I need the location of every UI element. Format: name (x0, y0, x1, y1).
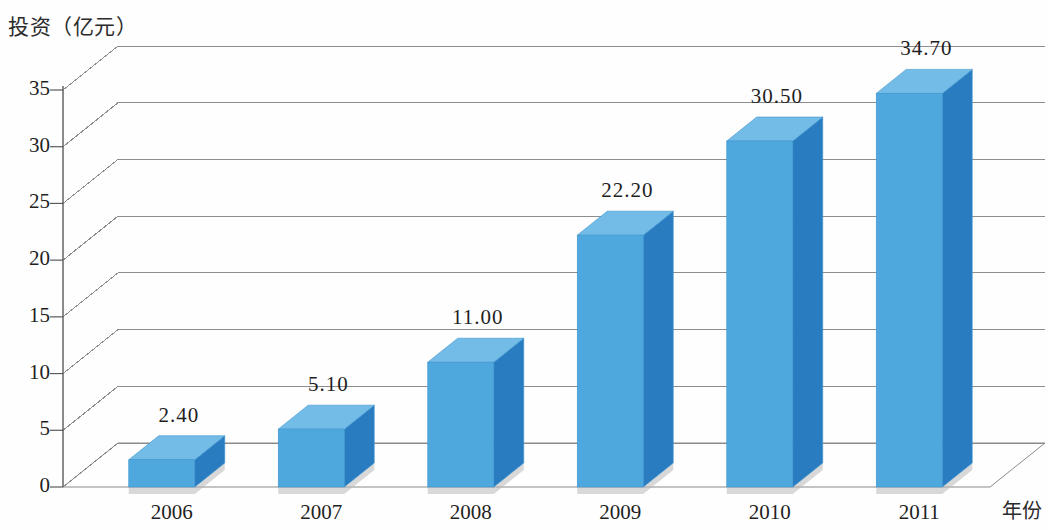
x-tick-label: 2010 (710, 500, 830, 525)
bar-value-label: 5.10 (268, 372, 388, 397)
plot-area (0, 0, 1048, 530)
bar-value-label: 2.40 (119, 403, 239, 428)
x-tick-label: 2006 (112, 500, 232, 525)
x-tick-label: 2011 (859, 500, 979, 525)
bars-group (129, 69, 973, 494)
bar-value-label: 34.70 (866, 36, 986, 61)
x-tick-label: 2008 (411, 500, 531, 525)
y-tick-label: 35 (6, 76, 50, 101)
y-tick-label: 20 (6, 246, 50, 271)
bar-value-label: 30.50 (717, 84, 837, 109)
y-tick-label: 15 (6, 303, 50, 328)
y-tick-label: 25 (6, 189, 50, 214)
y-tick-label: 0 (6, 473, 50, 498)
x-tick-label: 2009 (560, 500, 680, 525)
y-tick-label: 5 (6, 416, 50, 441)
bar-value-label: 11.00 (418, 305, 538, 330)
axis-lines-group (50, 86, 63, 487)
y-tick-label: 30 (6, 133, 50, 158)
chart-container: 投资（亿元） 年份 05101520253035 200620072008200… (0, 0, 1048, 530)
bar-value-label: 22.20 (567, 178, 687, 203)
y-tick-label: 10 (6, 360, 50, 385)
x-tick-label: 2007 (261, 500, 381, 525)
